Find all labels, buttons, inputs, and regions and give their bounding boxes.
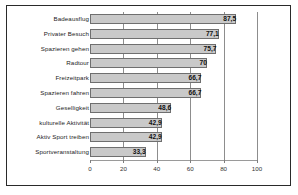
bar-row: 48,6 bbox=[90, 103, 257, 113]
x-axis-line bbox=[90, 160, 257, 161]
category-label: Badeausflug bbox=[9, 14, 89, 24]
tick-mark-20 bbox=[123, 160, 124, 163]
category-label: Spazieren gehen bbox=[9, 44, 89, 54]
x-tick-label: 60 bbox=[187, 165, 194, 172]
category-label: kulturelle Aktivität bbox=[9, 118, 89, 128]
category-label: Radtour bbox=[9, 58, 89, 68]
tick-mark-100 bbox=[257, 160, 258, 163]
category-label: Aktiv Sport treiben bbox=[9, 132, 89, 142]
x-tick-label: 80 bbox=[220, 165, 227, 172]
bar-row: 33,3 bbox=[90, 147, 257, 157]
bar-row: 66,7 bbox=[90, 88, 257, 98]
tick-mark-0 bbox=[90, 160, 91, 163]
tick-mark-60 bbox=[190, 160, 191, 163]
bar-value-label: 48,6 bbox=[90, 103, 173, 113]
x-tick-label: 20 bbox=[120, 165, 127, 172]
bar-value-label: 75,7 bbox=[90, 44, 218, 54]
bar-value-label: 42,9 bbox=[90, 132, 164, 142]
x-tick-label: 0 bbox=[88, 165, 91, 172]
bar-row: 87,5 bbox=[90, 14, 257, 24]
bar-row: 75,7 bbox=[90, 44, 257, 54]
bar-value-label: 77,1 bbox=[90, 29, 221, 39]
bar-value-label: 33,3 bbox=[90, 147, 148, 157]
bar-row: 42,9 bbox=[90, 118, 257, 128]
bar-value-label: 66,7 bbox=[90, 88, 203, 98]
bar-row: 70 bbox=[90, 58, 257, 68]
gridline-100 bbox=[257, 12, 258, 160]
plot-area: 87,577,175,77066,766,748,642,942,933,3 bbox=[90, 12, 257, 160]
tick-mark-40 bbox=[157, 160, 158, 163]
chart-frame: BadeausflugPrivater BesuchSpazieren gehe… bbox=[6, 5, 291, 186]
tick-mark-80 bbox=[224, 160, 225, 163]
category-label: Sportveranstaltung bbox=[9, 147, 89, 157]
category-label: Spazieren fahren bbox=[9, 88, 89, 98]
x-tick-label: 100 bbox=[252, 165, 262, 172]
bar-row: 66,7 bbox=[90, 73, 257, 83]
chart-plot-wrapper: BadeausflugPrivater BesuchSpazieren gehe… bbox=[7, 6, 290, 185]
x-tick-label: 40 bbox=[153, 165, 160, 172]
category-label: Privater Besuch bbox=[9, 29, 89, 39]
bar-value-label: 66,7 bbox=[90, 73, 203, 83]
category-label: Geselligkeit bbox=[9, 103, 89, 113]
bar-row: 42,9 bbox=[90, 132, 257, 142]
bar-value-label: 87,5 bbox=[90, 14, 238, 24]
category-label: Freizeitpark bbox=[9, 73, 89, 83]
category-label-column: BadeausflugPrivater BesuchSpazieren gehe… bbox=[7, 6, 89, 185]
bar-value-label: 42,9 bbox=[90, 118, 164, 128]
bar-row: 77,1 bbox=[90, 29, 257, 39]
bar-value-label: 70 bbox=[90, 58, 209, 68]
